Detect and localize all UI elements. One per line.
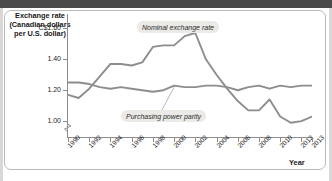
y-tick-label: 1.20	[47, 86, 61, 93]
series-line	[68, 83, 312, 92]
y-tick-label: 1.40	[47, 55, 61, 62]
page-left-edge	[0, 8, 3, 181]
annotation-purchasing-power-parity: Purchasing power parity	[121, 110, 206, 122]
annotation-nominal-exchange-rate: Nominal exchange rate	[137, 21, 219, 33]
x-axis-title: Year	[289, 158, 305, 167]
y-tick-label: C$1.60	[38, 24, 61, 31]
y-axis-title-line-1: Exchange rate	[4, 11, 76, 20]
page-top-band	[0, 0, 332, 8]
y-tick-label: 1.00	[47, 117, 61, 124]
x-axis-line	[67, 137, 313, 138]
figure-container: Exchange rate (Canadian dollars per U.S.…	[0, 0, 332, 181]
